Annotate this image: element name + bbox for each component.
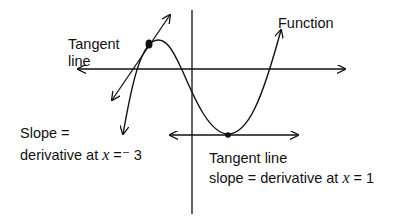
- tangent2-label-line2: slope = derivative at x = 1: [209, 169, 374, 187]
- tangent-line-x-neg3: [112, 15, 170, 100]
- tangent-point-x-1: [225, 132, 231, 138]
- tangent2-label: Tangent line slope = derivative at x = 1: [209, 150, 374, 187]
- tangent-line-label: Tangent line: [68, 36, 120, 70]
- slope-label-line1: Slope =: [20, 125, 142, 142]
- tangent-line-label-line1: Tangent: [68, 36, 120, 53]
- tangent2-label-var: x: [342, 169, 349, 186]
- tangent-line-label-line2: line: [68, 53, 120, 70]
- slope-label: Slope = derivative at x =⁻ 3: [20, 125, 142, 164]
- tangent2-label-suffix: = 1: [350, 170, 375, 186]
- slope-label-suffix: =⁻ 3: [109, 147, 142, 163]
- tangent2-label-line1: Tangent line: [209, 150, 374, 167]
- tangent-point-x-neg3: [146, 40, 153, 49]
- function-diagram: [0, 0, 401, 224]
- tangent2-label-prefix: slope = derivative at: [209, 170, 342, 186]
- slope-label-prefix: derivative at: [20, 147, 102, 163]
- slope-label-line2: derivative at x =⁻ 3: [20, 146, 142, 164]
- function-label: Function: [278, 15, 334, 32]
